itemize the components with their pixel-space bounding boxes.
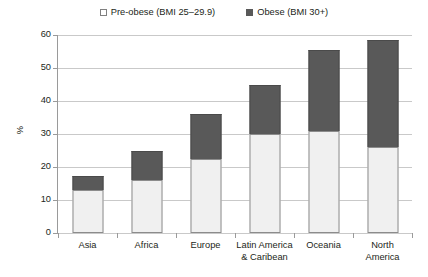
x-axis-tick bbox=[294, 233, 295, 238]
x-axis-category-label: Asia bbox=[58, 240, 117, 263]
bar-segment-pre-obese[interactable] bbox=[190, 159, 221, 233]
bar-segment-pre-obese[interactable] bbox=[131, 180, 162, 233]
bar-segment-obese[interactable] bbox=[308, 50, 339, 131]
legend-label-pre-obese: Pre-obese (BMI 25–29.9) bbox=[111, 7, 215, 18]
bar-slot bbox=[353, 35, 412, 233]
legend-label-obese: Obese (BMI 30+) bbox=[257, 7, 328, 18]
stacked-bar[interactable] bbox=[72, 176, 103, 233]
bar-slot bbox=[294, 35, 353, 233]
legend-swatch-open-square-icon bbox=[100, 9, 107, 16]
x-axis-category-label: Europe bbox=[176, 240, 235, 263]
bar-slot bbox=[58, 35, 117, 233]
bar-segment-obese[interactable] bbox=[190, 114, 221, 159]
legend-swatch-filled-square-icon bbox=[246, 9, 253, 16]
stacked-bar[interactable] bbox=[190, 114, 221, 233]
bar-slot bbox=[117, 35, 176, 233]
bar-segment-obese[interactable] bbox=[131, 151, 162, 181]
stacked-bar[interactable] bbox=[308, 50, 339, 233]
chart-legend: Pre-obese (BMI 25–29.9) Obese (BMI 30+) bbox=[0, 7, 428, 18]
bar-slot bbox=[235, 35, 294, 233]
y-axis-tick-label: 10 bbox=[41, 195, 51, 204]
x-axis-tick bbox=[117, 233, 118, 238]
x-axis-ticks bbox=[58, 233, 412, 238]
x-axis-tick bbox=[176, 233, 177, 238]
x-axis-tick bbox=[353, 233, 354, 238]
x-axis-category-label: Oceania bbox=[294, 240, 353, 263]
bar-segment-pre-obese[interactable] bbox=[308, 131, 339, 233]
plot-area: 0102030405060 bbox=[58, 35, 412, 233]
x-axis-tick bbox=[412, 233, 413, 238]
x-axis-tick bbox=[58, 233, 59, 238]
stacked-bar[interactable] bbox=[367, 40, 398, 233]
stacked-bar-chart: Pre-obese (BMI 25–29.9) Obese (BMI 30+) … bbox=[0, 0, 428, 277]
x-axis-category-label: Africa bbox=[117, 240, 176, 263]
legend-item-obese: Obese (BMI 30+) bbox=[246, 7, 328, 18]
bar-segment-pre-obese[interactable] bbox=[249, 134, 280, 233]
bar-segment-obese[interactable] bbox=[367, 40, 398, 147]
bar-series-container bbox=[58, 35, 412, 233]
y-axis-tick-label: 20 bbox=[41, 162, 51, 171]
bar-segment-pre-obese[interactable] bbox=[367, 147, 398, 233]
x-axis-tick bbox=[235, 233, 236, 238]
bar-segment-obese[interactable] bbox=[72, 176, 103, 190]
x-axis-category-labels: AsiaAfricaEuropeLatin America& CaribeanO… bbox=[58, 240, 412, 263]
stacked-bar[interactable] bbox=[131, 151, 162, 233]
bar-slot bbox=[176, 35, 235, 233]
bar-segment-pre-obese[interactable] bbox=[72, 190, 103, 233]
bar-segment-obese[interactable] bbox=[249, 85, 280, 135]
x-axis-category-label: Latin America& Caribean bbox=[235, 240, 294, 263]
y-axis-tick-label: 30 bbox=[41, 129, 51, 138]
y-axis-tick-label: 0 bbox=[46, 228, 51, 237]
legend-item-pre-obese: Pre-obese (BMI 25–29.9) bbox=[100, 7, 215, 18]
y-axis-tick-label: 60 bbox=[41, 30, 51, 39]
stacked-bar[interactable] bbox=[249, 85, 280, 234]
y-axis-tick-label: 50 bbox=[41, 63, 51, 72]
y-axis-tick-label: 40 bbox=[41, 96, 51, 105]
y-axis-title: % bbox=[15, 126, 25, 134]
x-axis-category-label: NorthAmerica bbox=[353, 240, 412, 263]
